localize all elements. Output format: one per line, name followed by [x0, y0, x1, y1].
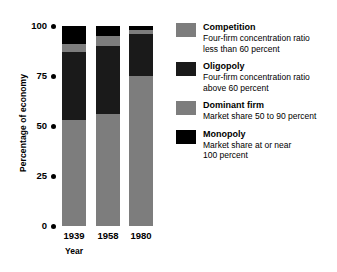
bar-1939 — [62, 26, 86, 226]
y-axis-tick-label: 75 — [36, 71, 47, 81]
y-axis-tick: 25 — [12, 170, 56, 182]
legend-item-title: Dominant firm — [203, 100, 334, 111]
bar-segment-oligopoly — [96, 46, 120, 114]
legend-item-desc-line2: less than 60 percent — [203, 44, 334, 55]
y-axis-tick: 75 — [12, 70, 56, 82]
y-axis-tick-dot-icon — [51, 74, 56, 79]
plot-area — [62, 26, 162, 226]
legend-item: CompetitionFour-firm concentration ratio… — [176, 22, 334, 54]
legend-text: Dominant firmMarket share 50 to 90 perce… — [203, 100, 334, 122]
x-axis-title: Year — [54, 246, 94, 256]
y-axis-tick-dot-icon — [51, 124, 56, 129]
bar-segment-competition — [62, 120, 86, 226]
y-axis-tick: 0 — [12, 220, 56, 232]
legend-item-desc-line1: Market share 50 to 90 percent — [203, 111, 334, 122]
y-axis-tick-label: 25 — [36, 171, 47, 181]
legend-item: OligopolyFour-firm concentration ratioab… — [176, 61, 334, 93]
legend-swatch-icon — [176, 23, 196, 37]
legend-text: MonopolyMarket share at or near100 perce… — [203, 129, 334, 161]
legend-item: Dominant firmMarket share 50 to 90 perce… — [176, 100, 334, 122]
legend-item-title: Competition — [203, 22, 334, 33]
y-axis-tick-dot-icon — [51, 174, 56, 179]
y-axis-tick-label: 50 — [36, 121, 47, 131]
legend-swatch-icon — [176, 130, 196, 144]
bar-segment-monopoly — [96, 26, 120, 36]
bar-segment-dominant-firm — [96, 36, 120, 46]
y-axis-tick-dot-icon — [51, 224, 56, 229]
chart-legend: CompetitionFour-firm concentration ratio… — [176, 22, 334, 168]
legend-text: CompetitionFour-firm concentration ratio… — [203, 22, 334, 54]
legend-item-desc-line1: Four-firm concentration ratio — [203, 72, 334, 83]
legend-swatch-icon — [176, 62, 196, 76]
y-axis-tick-label: 0 — [42, 221, 47, 231]
bar-1980 — [129, 26, 153, 226]
bar-segment-monopoly — [62, 26, 86, 44]
bar-1958 — [96, 26, 120, 226]
bar-segment-competition — [96, 114, 120, 226]
bar-segment-competition — [129, 76, 153, 226]
legend-swatch-icon — [176, 101, 196, 115]
legend-item: MonopolyMarket share at or near100 perce… — [176, 129, 334, 161]
stacked-bar-chart: Percentage of economy 1007550250 1939195… — [0, 0, 337, 272]
bar-segment-oligopoly — [129, 34, 153, 76]
legend-item-title: Monopoly — [203, 129, 334, 140]
bar-segment-dominant-firm — [62, 44, 86, 52]
y-axis-tick: 100 — [12, 20, 56, 32]
legend-item-desc-line1: Four-firm concentration ratio — [203, 33, 334, 44]
y-axis-tick: 50 — [12, 120, 56, 132]
legend-item-desc-line2: above 60 percent — [203, 83, 334, 94]
x-axis-label-1980: 1980 — [121, 230, 161, 241]
legend-item-title: Oligopoly — [203, 61, 334, 72]
y-axis-tick-dot-icon — [51, 24, 56, 29]
bar-segment-oligopoly — [62, 52, 86, 120]
y-axis-tick-label: 100 — [31, 21, 47, 31]
legend-item-desc-line2: 100 percent — [203, 150, 334, 161]
legend-text: OligopolyFour-firm concentration ratioab… — [203, 61, 334, 93]
legend-item-desc-line1: Market share at or near — [203, 140, 334, 151]
